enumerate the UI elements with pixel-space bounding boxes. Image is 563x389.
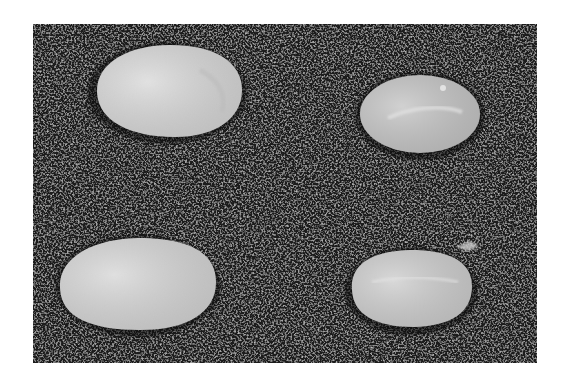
- rice-grain-photo: [33, 24, 537, 363]
- photo-canvas: [33, 24, 537, 363]
- rice-grain-bottom-left: [60, 238, 216, 330]
- rice-grain-top-left: [97, 45, 242, 137]
- rice-grain-top-right: [360, 75, 480, 153]
